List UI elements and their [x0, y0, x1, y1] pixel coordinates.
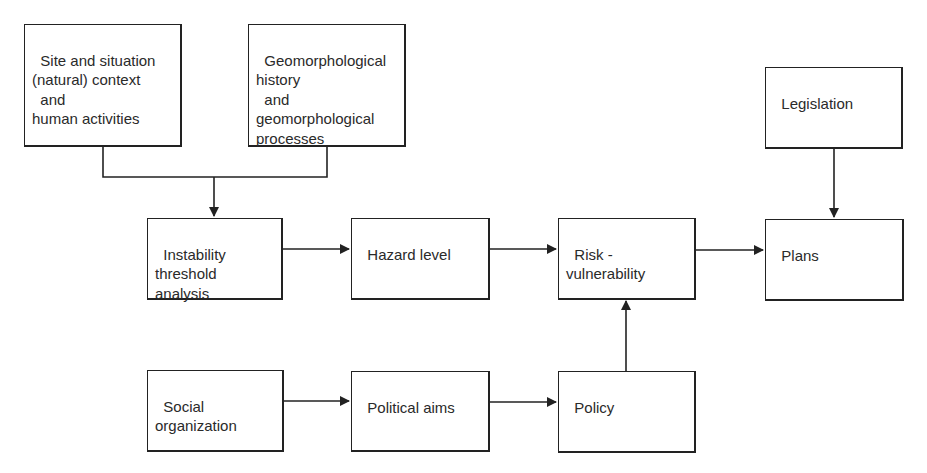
node-label: Site and situation (natural) context and… — [32, 52, 155, 128]
node-instability-threshold: Instability threshold analysis — [147, 218, 283, 300]
node-political-aims: Political aims — [351, 371, 490, 452]
node-label: Instability threshold analysis — [155, 246, 226, 302]
node-label: Legislation — [781, 95, 853, 112]
node-legislation: Legislation — [765, 67, 903, 149]
node-geomorphological-history: Geomorphological history and geomorpholo… — [248, 24, 406, 147]
node-hazard-level: Hazard level — [351, 218, 490, 300]
node-site-context: Site and situation (natural) context and… — [24, 24, 182, 147]
node-label: Social organization — [155, 398, 237, 435]
edge-site-geomorph-merge — [103, 146, 327, 177]
node-social-organization: Social organization — [147, 370, 284, 452]
node-label: Political aims — [367, 399, 455, 416]
node-label: Plans — [781, 247, 819, 264]
node-plans: Plans — [765, 219, 904, 301]
node-label: Hazard level — [367, 246, 450, 263]
node-label: Policy — [574, 399, 614, 416]
node-label: Geomorphological history and geomorpholo… — [256, 52, 386, 147]
node-label: Risk - vulnerability — [566, 246, 645, 283]
node-risk-vulnerability: Risk - vulnerability — [558, 218, 696, 300]
node-policy: Policy — [558, 371, 696, 453]
